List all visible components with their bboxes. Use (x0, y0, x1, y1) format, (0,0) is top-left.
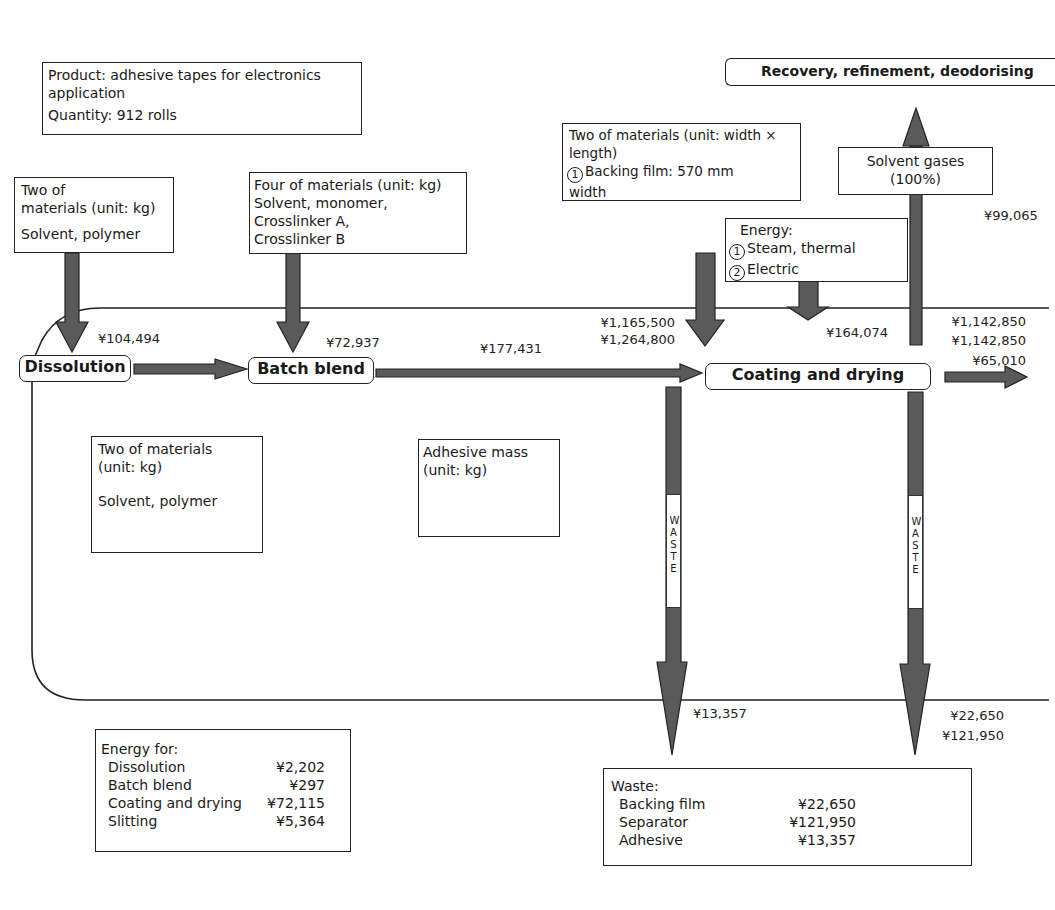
box-line-text: Backing film: 570 mm (585, 163, 734, 179)
value-coating-material-in-2: ¥1,264,800 (560, 332, 675, 348)
dissolution-to-batch-arrow (134, 359, 247, 379)
waste-label-text: WASTE (670, 515, 678, 575)
recovery-box: Recovery, refinement, deodorising (725, 58, 1055, 86)
box-line: Solvent, polymer (98, 492, 256, 510)
quantity-line: Quantity: 912 rolls (48, 106, 356, 124)
row-label: Backing film (619, 795, 705, 813)
box-title: Energy: (740, 221, 901, 239)
box-line: width (569, 183, 794, 201)
box-line: (unit: kg) (423, 461, 555, 479)
summary-title: Waste: (611, 777, 964, 795)
energy-item: 2Electric (729, 260, 901, 281)
box-line: Crosslinker B (254, 230, 462, 248)
energy-item-label: Steam, thermal (747, 240, 856, 256)
dissolution-output-box: Two of materials (unit: kg) Solvent, pol… (91, 436, 263, 553)
coating-materials-box: Two of materials (unit: width × length) … (562, 123, 801, 201)
dissolution-input-arrow (56, 253, 88, 352)
box-line: Crosslinker A, (254, 212, 462, 230)
batch-materials-box: Four of materials (unit: kg) Solvent, mo… (249, 172, 467, 254)
box-line: materials (unit: kg) (21, 199, 167, 217)
row-label: Batch blend (108, 776, 192, 794)
row-label: Adhesive (619, 831, 683, 849)
process-label: Dissolution (24, 357, 125, 376)
summary-row: Separator ¥121,950 (611, 813, 856, 831)
box-line: Two of materials (98, 440, 256, 458)
summary-row: Batch blend ¥297 (101, 776, 345, 794)
process-batch-blend[interactable]: Batch blend (248, 357, 374, 384)
row-label: Separator (619, 813, 688, 831)
box-line: length) (569, 144, 794, 162)
batch-input-arrow (277, 252, 309, 352)
process-coating-drying[interactable]: Coating and drying (705, 363, 931, 390)
batch-to-coating-arrow (376, 364, 702, 382)
summary-row: Slitting ¥5,364 (101, 812, 345, 830)
energy-input-arrow (788, 281, 828, 320)
value-waste-left: ¥13,357 (693, 706, 747, 722)
value-waste-right-2: ¥121,950 (930, 728, 1004, 744)
value-coating-material-in-1: ¥1,165,500 (560, 315, 675, 331)
energy-item-label: Electric (747, 261, 799, 277)
product-line: application (48, 84, 356, 102)
box-line: Adhesive mass (423, 443, 555, 461)
row-value: ¥121,950 (789, 813, 856, 831)
value-batch-out: ¥177,431 (480, 341, 542, 357)
energy-input-box: Energy: 1Steam, thermal 2Electric (725, 218, 908, 282)
row-label: Slitting (108, 812, 157, 830)
value-energy-in: ¥164,074 (826, 325, 888, 341)
circled-number-icon: 1 (729, 244, 745, 260)
waste-label-left: WASTE (666, 494, 681, 608)
box-line: Four of materials (unit: kg) (254, 176, 462, 194)
adhesive-mass-box: Adhesive mass (unit: kg) (418, 439, 560, 537)
row-label: Dissolution (108, 758, 185, 776)
value-output-1: ¥1,142,850 (930, 314, 1026, 330)
value-waste-right-1: ¥22,650 (930, 708, 1004, 724)
product-info-box: Product: adhesive tapes for electronics … (42, 62, 362, 135)
box-line: Two of (21, 181, 167, 199)
box-line: (100%) (843, 170, 988, 188)
row-value: ¥22,650 (798, 795, 856, 813)
box-line: Solvent, monomer, (254, 194, 462, 212)
summary-title: Energy for: (101, 740, 345, 758)
waste-summary-box: Waste: Backing film ¥22,650 Separator ¥1… (603, 768, 972, 866)
box-line: 1Backing film: 570 mm (567, 162, 794, 183)
row-value: ¥2,202 (276, 758, 325, 776)
product-line: Product: adhesive tapes for electronics (48, 66, 356, 84)
circled-number-icon: 2 (729, 265, 745, 281)
row-label: Coating and drying (108, 794, 242, 812)
box-line: Solvent gases (843, 152, 988, 170)
process-label: Batch blend (257, 359, 365, 378)
value-dissolution-in: ¥104,494 (98, 331, 160, 347)
process-dissolution[interactable]: Dissolution (19, 355, 131, 382)
summary-row: Backing film ¥22,650 (611, 795, 856, 813)
row-value: ¥13,357 (798, 831, 856, 849)
waste-label-text: WASTE (912, 516, 920, 576)
circled-number-icon: 1 (567, 167, 583, 183)
value-output-2: ¥1,142,850 (930, 333, 1026, 349)
box-line: Two of materials (unit: width × (569, 126, 794, 144)
solvent-gases-box: Solvent gases (100%) (838, 147, 993, 195)
summary-row: Coating and drying ¥72,115 (101, 794, 345, 812)
box-line: (unit: kg) (98, 458, 256, 476)
row-value: ¥72,115 (267, 794, 325, 812)
box-line: Solvent, polymer (21, 225, 167, 243)
value-solvent-gas-out: ¥99,065 (984, 208, 1038, 224)
row-value: ¥5,364 (276, 812, 325, 830)
row-value: ¥297 (289, 776, 325, 794)
output-right-arrow (945, 366, 1027, 388)
coating-material-input-arrow (686, 253, 724, 346)
summary-row: Adhesive ¥13,357 (611, 831, 856, 849)
value-batch-in: ¥72,937 (326, 335, 380, 351)
value-output-3: ¥65,010 (930, 353, 1026, 369)
summary-row: Dissolution ¥2,202 (101, 758, 345, 776)
process-label: Coating and drying (732, 365, 904, 384)
waste-label-right: WASTE (908, 495, 923, 609)
recovery-label: Recovery, refinement, deodorising (761, 63, 1034, 79)
energy-summary-box: Energy for: Dissolution ¥2,202 Batch ble… (95, 729, 351, 852)
dissolution-materials-box: Two of materials (unit: kg) Solvent, pol… (14, 177, 174, 253)
energy-item: 1Steam, thermal (729, 239, 901, 260)
